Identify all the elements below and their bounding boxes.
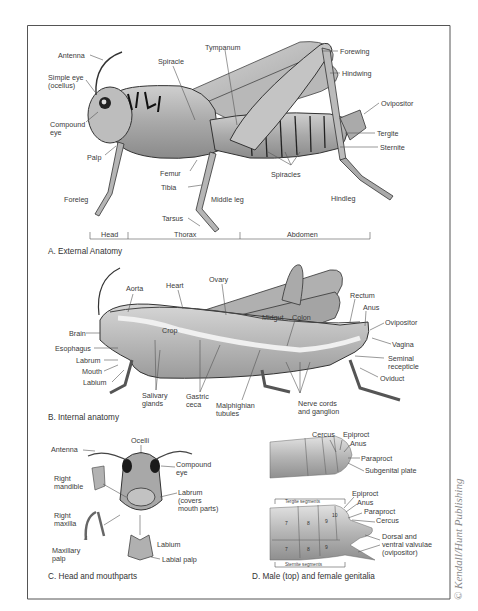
label-sternite: Sternite [380,143,405,152]
caption-b: B. Internal anatomy [48,413,120,422]
label-c-labrum-mouth-parts: mouth parts) [178,504,218,513]
label-labrum: Labrum [76,356,100,365]
label-ceca: ceca [186,400,201,409]
label-middle-leg: Middle leg [211,195,244,204]
right-maxilla-shape [86,512,104,540]
middle-leg-shape [196,152,219,232]
panel-c-head-mouthparts: Antenna Ocelli Compound eye Right mandib… [48,436,218,581]
region-brackets [90,232,370,239]
label-c-compound-eye-2: eye [176,468,188,477]
region-thorax: Thorax [174,230,197,239]
region-abdomen: Abdomen [287,230,318,239]
sternite-number-8: 8 [307,546,310,552]
label-foreleg: Foreleg [64,195,88,204]
copyright-credit: © Kendall/Hunt Publishing [452,479,464,600]
label-male-paraproct: Paraproct [361,454,392,463]
tergite-number-10: 10 [332,512,338,518]
label-heart: Heart [166,281,184,290]
sternite-number-9: 9 [325,544,328,550]
label-anus: Anus [363,303,380,312]
label-sternite-segments: Sternite segments [285,562,323,567]
label-tarsus: Tarsus [162,214,184,223]
internal-leg-front [110,360,132,393]
panel-d-genitalia: Cercus Epiproct Anus Paraproct Subgenita… [252,430,432,581]
label-mouth: Mouth [82,367,102,376]
label-hindleg: Hindleg [331,194,355,203]
tergite-number-9: 9 [325,518,328,524]
labium-shape [128,535,153,560]
label-maxilla: maxilla [54,519,76,528]
label-male-cercus: Cercus [312,430,335,439]
label-recepticle: recepticle [388,362,419,371]
label-spiracles: Spiracles [271,170,301,179]
label-female-epiproct: Epiproct [352,489,378,498]
tergite-number-7: 7 [285,520,288,526]
label-c-antenna: Antenna [51,445,78,454]
panel-a-external-anatomy: Antenna Simple eye (ocellus) Compound ey… [48,42,414,256]
grasshopper-anatomy-figure: Antenna Simple eye (ocellus) Compound ey… [0,0,478,611]
label-ovary: Ovary [209,275,229,284]
label-colon: Colon [292,313,311,322]
label-maxillary-palp: palp [52,554,66,563]
label-and-ganglion: and ganglion [298,407,339,416]
label-female-cercus: Cercus [376,516,399,525]
label-male-epiproct: Epiproct [343,430,369,439]
caption-a: A. External Anatomy [48,247,123,256]
label-female-paraproct: Paraproct [364,507,395,516]
region-head: Head [101,230,118,239]
label-c-labium: Labium [157,540,181,549]
tergite-number-8: 8 [307,520,310,526]
label-tibia: Tibia [161,183,176,192]
left-compound-eye [122,459,132,473]
label-midgut: Midgut [262,313,284,322]
label-hindwing: Hindwing [342,69,372,78]
label-labium: Labium [83,378,107,387]
label-crop: Crop [162,326,178,335]
label-compound-eye-2: eye [50,128,62,137]
label-glands: glands [142,399,164,408]
label-ocelli: Ocelli [131,436,149,445]
right-mandible-shape [92,466,105,490]
label-palp: Palp [87,153,101,162]
label-mandible: mandible [54,482,83,491]
label-tergite-segments: Tergite segments [285,499,321,504]
label-subgenital-plate: Subgenital plate [365,466,417,475]
label-tympanum: Tympanum [205,43,241,52]
label-forewing: Forewing [340,47,370,56]
label-aorta: Aorta [126,284,143,293]
label-tubules: tubules [216,409,240,418]
caption-c: C. Head and mouthparts [48,572,137,581]
label-rectum: Rectum [350,291,375,300]
sternite-number-7: 7 [285,546,288,552]
right-compound-eye [150,459,160,473]
label-spiracle: Spiracle [158,57,184,66]
label-antenna: Antenna [58,51,85,60]
eye-highlight [102,100,107,105]
label-brain: Brain [69,329,86,338]
label-tergite: Tergite [377,129,399,138]
male-abdomen-shape [270,436,352,478]
label-simple-eye-ocellus: (ocellus) [48,81,75,90]
label-vagina: Vagina [392,340,414,349]
label-labial-palp: Labial palp [162,555,197,564]
label-female-anus: Anus [357,498,374,507]
panel-b-internal-anatomy: Aorta Heart Ovary Brain Esophagus Labrum… [48,265,419,422]
label-ovipositor: Ovipositor [381,99,414,108]
label-oviduct: Oviduct [380,374,404,383]
label-ovipositor-b: Ovipositor [385,318,418,327]
labrum-shape [127,488,155,506]
label-femur: Femur [160,169,181,178]
caption-d: D. Male (top) and female genitalia [252,572,375,581]
label-esophagus: Esophagus [55,344,91,353]
label-ovipositor-d: (ovipositor) [382,548,418,557]
label-male-anus: Anus [350,439,367,448]
